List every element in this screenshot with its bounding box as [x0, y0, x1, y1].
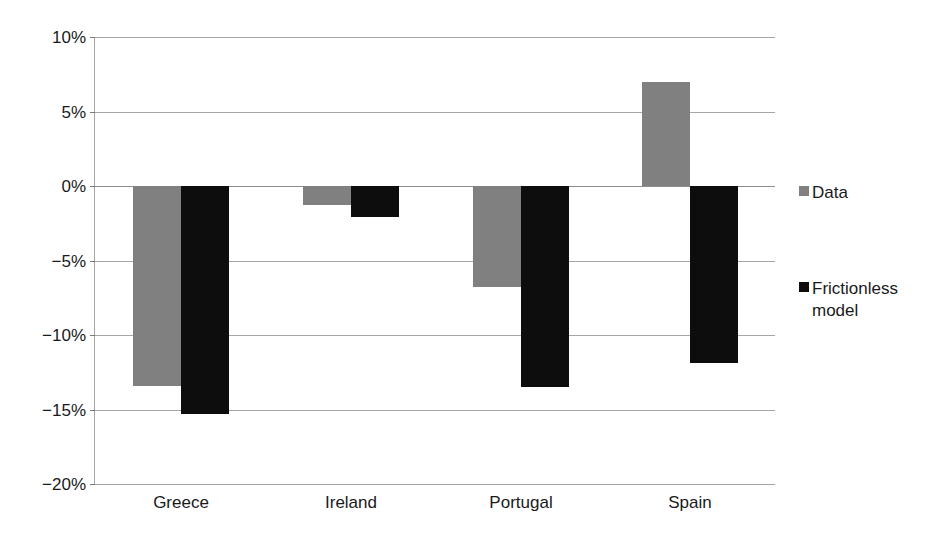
- y-axis-label: −5%: [52, 252, 87, 269]
- gridline-10: [95, 37, 775, 38]
- gridline-neg20: [95, 484, 775, 485]
- bar-portugal-frictionless-model: [521, 186, 569, 387]
- legend-label: Data: [812, 182, 848, 204]
- bar-greece-data: [133, 186, 181, 386]
- bar-spain-data: [642, 82, 690, 186]
- x-axis-label-portugal: Portugal: [489, 494, 552, 511]
- legend-swatch-icon: [799, 282, 809, 292]
- bar-ireland-data: [303, 186, 351, 205]
- bar-spain-frictionless-model: [690, 186, 738, 363]
- legend-entry-data[interactable]: Data: [799, 182, 848, 204]
- y-axis-tick: [90, 261, 95, 262]
- bar-chart: 10%5%0%−5%−10%−15%−20% DataFrictionless …: [0, 0, 937, 543]
- bar-portugal-data: [473, 186, 521, 287]
- bar-ireland-frictionless-model: [351, 186, 399, 217]
- x-axis-label-ireland: Ireland: [325, 494, 377, 511]
- x-axis-label-spain: Spain: [668, 494, 711, 511]
- y-axis-tick: [90, 37, 95, 38]
- legend-label: Frictionless model: [812, 278, 898, 322]
- y-axis-tick: [90, 410, 95, 411]
- y-axis-label: −10%: [42, 327, 86, 344]
- y-axis-label: 10%: [52, 29, 86, 46]
- y-axis-label: 5%: [61, 103, 86, 120]
- y-axis-tick: [90, 186, 95, 187]
- y-axis-tick: [90, 335, 95, 336]
- legend-entry-frictionless-model[interactable]: Frictionless model: [799, 278, 898, 322]
- y-axis-label: 0%: [61, 178, 86, 195]
- y-axis-label: −20%: [42, 476, 86, 493]
- x-axis-label-greece: Greece: [153, 494, 209, 511]
- bar-greece-frictionless-model: [181, 186, 229, 414]
- y-axis-label: −15%: [42, 401, 86, 418]
- y-axis-tick: [90, 484, 95, 485]
- legend-swatch-icon: [799, 186, 809, 196]
- y-axis-tick: [90, 112, 95, 113]
